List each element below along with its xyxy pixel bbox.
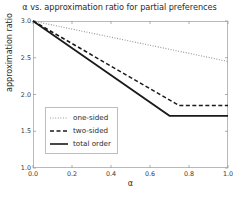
- legend: one-sided two-sided total order: [45, 107, 118, 154]
- legend-label: total order: [73, 139, 111, 149]
- series-line-total-order: [33, 21, 228, 116]
- legend-sample-dashed-line: [49, 126, 69, 136]
- y-tick-label: 1.5: [21, 127, 31, 135]
- y-tick-label: 3.0: [21, 17, 31, 25]
- legend-sample-dotted-line: [49, 113, 69, 123]
- legend-item-total-order: total order: [49, 137, 114, 150]
- chart-title: α vs. approximation ratio for partial pr…: [0, 2, 239, 12]
- legend-sample-solid-line: [49, 139, 69, 149]
- x-tick-label: 0.4: [106, 170, 116, 178]
- x-tick-label: 1.0: [223, 170, 233, 178]
- legend-label: one-sided: [73, 113, 108, 123]
- x-tick-label: 0.0: [28, 170, 38, 178]
- x-tick-label: 0.6: [145, 170, 155, 178]
- legend-item-two-sided: two-sided: [49, 124, 114, 137]
- series-line-two-sided: [33, 21, 228, 106]
- chart-figure: α vs. approximation ratio for partial pr…: [0, 0, 239, 198]
- x-axis-label: α: [33, 179, 228, 188]
- y-tick-label: 2.0: [21, 91, 31, 99]
- y-axis-tick-labels: 1.0 1.5 2.0 2.5 3.0: [12, 21, 31, 168]
- x-tick-label: 0.2: [67, 170, 77, 178]
- series-group: [33, 21, 228, 116]
- legend-label: two-sided: [73, 126, 108, 136]
- y-tick-label: 2.5: [21, 54, 31, 62]
- legend-item-one-sided: one-sided: [49, 111, 114, 124]
- x-tick-label: 0.8: [184, 170, 194, 178]
